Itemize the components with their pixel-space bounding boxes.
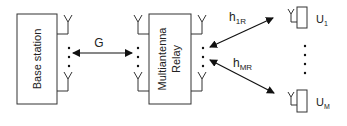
link-h1r-label: h1R [229,10,246,26]
base-station-node: Base station [17,14,72,104]
user-m-label: UM [316,96,330,110]
antenna-icon [134,72,149,91]
user-device-icon [297,90,307,112]
system-diagram: Base station G Multiantenna Relay [0,0,347,126]
ellipsis-dots-icon [137,47,139,67]
link-g-label: G [94,36,103,50]
user-m-node: UM [288,90,330,112]
user-device-icon [297,7,307,28]
link-hmr: hMR [210,56,274,93]
antenna-icon [288,92,297,105]
relay-label-line2: Relay [170,44,182,73]
link-h1r: h1R [210,10,273,47]
antenna-icon [57,15,72,34]
base-station-label: Base station [31,29,43,90]
link-g: G [73,36,132,53]
link-hmr-label: hMR [233,56,252,72]
ellipsis-dots-icon [202,47,204,67]
antenna-icon [288,9,297,22]
user-1-label: U1 [316,13,328,27]
relay-node: Multiantenna Relay [134,14,206,104]
ellipsis-dots-icon [304,45,306,74]
user-1-node: U1 [288,7,328,28]
antenna-icon [191,72,206,91]
antenna-icon [57,72,72,91]
antenna-icon [134,15,149,34]
ellipsis-dots-icon [68,47,70,67]
antenna-icon [191,15,206,34]
relay-label-line1: Multiantenna [156,27,168,91]
